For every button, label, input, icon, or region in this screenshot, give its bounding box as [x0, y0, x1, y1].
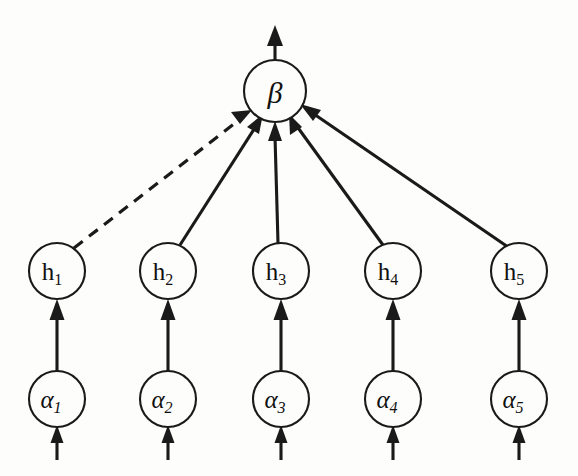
node-alpha-3-label: α	[264, 386, 278, 413]
node-alpha-5-subscript: 5	[516, 399, 524, 416]
node-h-4-label: h	[378, 258, 391, 285]
node-alpha-4[interactable]: α4	[365, 371, 421, 427]
node-h-2-label: h	[153, 258, 166, 285]
node-h-2[interactable]: h2	[140, 243, 196, 299]
node-alpha-1[interactable]: α1	[29, 371, 85, 427]
node-h-4[interactable]: h4	[365, 243, 421, 299]
node-alpha-5[interactable]: α5	[491, 371, 547, 427]
node-alpha-3-subscript: 3	[277, 399, 286, 416]
node-h-5-label: h	[504, 258, 517, 285]
node-alpha-4-label: α	[376, 386, 390, 413]
node-h-1[interactable]: h1	[29, 243, 85, 299]
node-alpha-4-subscript: 4	[390, 399, 398, 416]
node-alpha-1-subscript: 1	[54, 399, 62, 416]
node-alpha-2-label: α	[151, 386, 165, 413]
node-h-1-subscript: 1	[54, 271, 62, 288]
node-beta-label: β	[267, 76, 283, 109]
node-alpha-1-label: α	[40, 386, 54, 413]
node-h-3[interactable]: h3	[253, 243, 309, 299]
diagram-canvas: α1 α2 α3 α4	[0, 0, 578, 476]
node-alpha-2-subscript: 2	[165, 399, 173, 416]
node-h-4-subscript: 4	[390, 271, 398, 288]
node-h-2-subscript: 2	[165, 271, 173, 288]
node-alpha-3[interactable]: α3	[253, 371, 309, 427]
node-alpha-2[interactable]: α2	[140, 371, 196, 427]
node-beta[interactable]: β	[244, 60, 306, 122]
node-h-3-label: h	[266, 258, 279, 285]
node-h-5[interactable]: h5	[491, 243, 547, 299]
node-h-5-subscript: 5	[516, 271, 524, 288]
node-alpha-5-label: α	[502, 386, 516, 413]
node-graph-svg: α1 α2 α3 α4	[0, 0, 578, 476]
node-h-1-label: h	[42, 258, 55, 285]
node-h-3-subscript: 3	[278, 271, 286, 288]
